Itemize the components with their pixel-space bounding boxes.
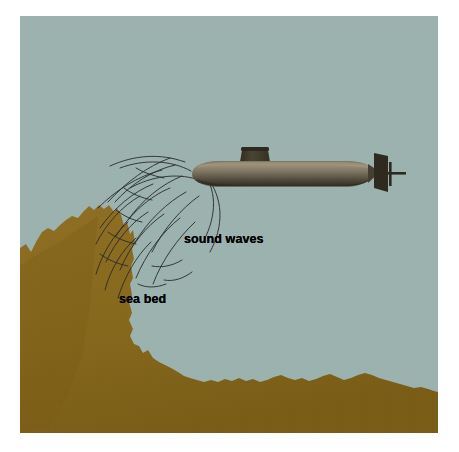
stern-plane bbox=[382, 172, 406, 175]
propeller-shaft bbox=[389, 162, 392, 186]
illustration-scene: sound waves sea bed bbox=[20, 16, 438, 433]
scene-svg bbox=[20, 16, 438, 433]
label-sea-bed: sea bed bbox=[119, 292, 166, 306]
conning-tower-top bbox=[241, 147, 269, 151]
label-sound-waves: sound waves bbox=[184, 232, 264, 246]
figure-container: sound waves sea bed bbox=[0, 0, 459, 452]
